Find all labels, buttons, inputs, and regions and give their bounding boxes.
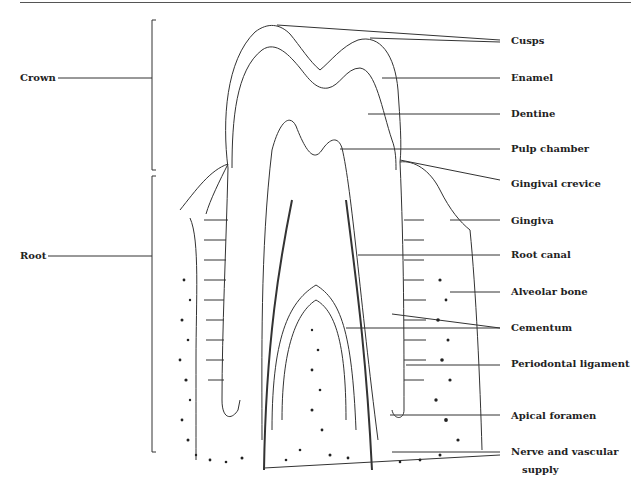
- label-nerve-vascular-supply: supply: [522, 464, 559, 476]
- label-gingival-crevice: Gingival crevice: [511, 178, 601, 190]
- label-pulp-chamber: Pulp chamber: [511, 143, 589, 155]
- root-canal-right: [346, 200, 372, 470]
- root-canal-left: [264, 200, 292, 470]
- root-bracket: [152, 176, 156, 452]
- label-periodontal-ligament: Periodontal ligament: [511, 358, 630, 370]
- label-gingiva: Gingiva: [511, 215, 554, 227]
- crown-bracket: [152, 20, 156, 170]
- label-alveolar-bone: Alveolar bone: [511, 286, 588, 298]
- alveolar-bone-dots: [179, 278, 460, 463]
- label-crown: Crown: [20, 72, 56, 84]
- label-enamel: Enamel: [511, 72, 553, 84]
- label-apical-foramen: Apical foramen: [511, 410, 596, 422]
- label-cementum: Cementum: [511, 322, 572, 334]
- label-root: Root: [20, 250, 46, 262]
- label-dentine: Dentine: [511, 108, 555, 120]
- enamel-outline: [226, 25, 401, 168]
- dentine-boundary: [232, 47, 396, 170]
- label-root-canal: Root canal: [511, 249, 571, 261]
- label-nerve-vascular: Nerve and vascular: [511, 446, 618, 458]
- label-cusps: Cusps: [511, 35, 544, 47]
- pulp-chamber-outline: [262, 120, 378, 440]
- gingiva-left: [180, 164, 228, 214]
